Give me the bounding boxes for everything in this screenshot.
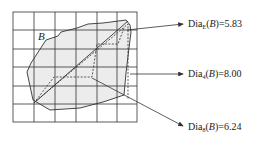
dia-4-label: Dia4(B)=8.00 (188, 69, 241, 80)
dia-8-label: Dia8(B)=6.24 (188, 122, 241, 133)
arrow-e (127, 24, 183, 30)
region-label: B (38, 30, 45, 42)
arrow-8 (92, 78, 183, 126)
dia-e-label: DiaE(B)=5.83 (188, 19, 242, 30)
